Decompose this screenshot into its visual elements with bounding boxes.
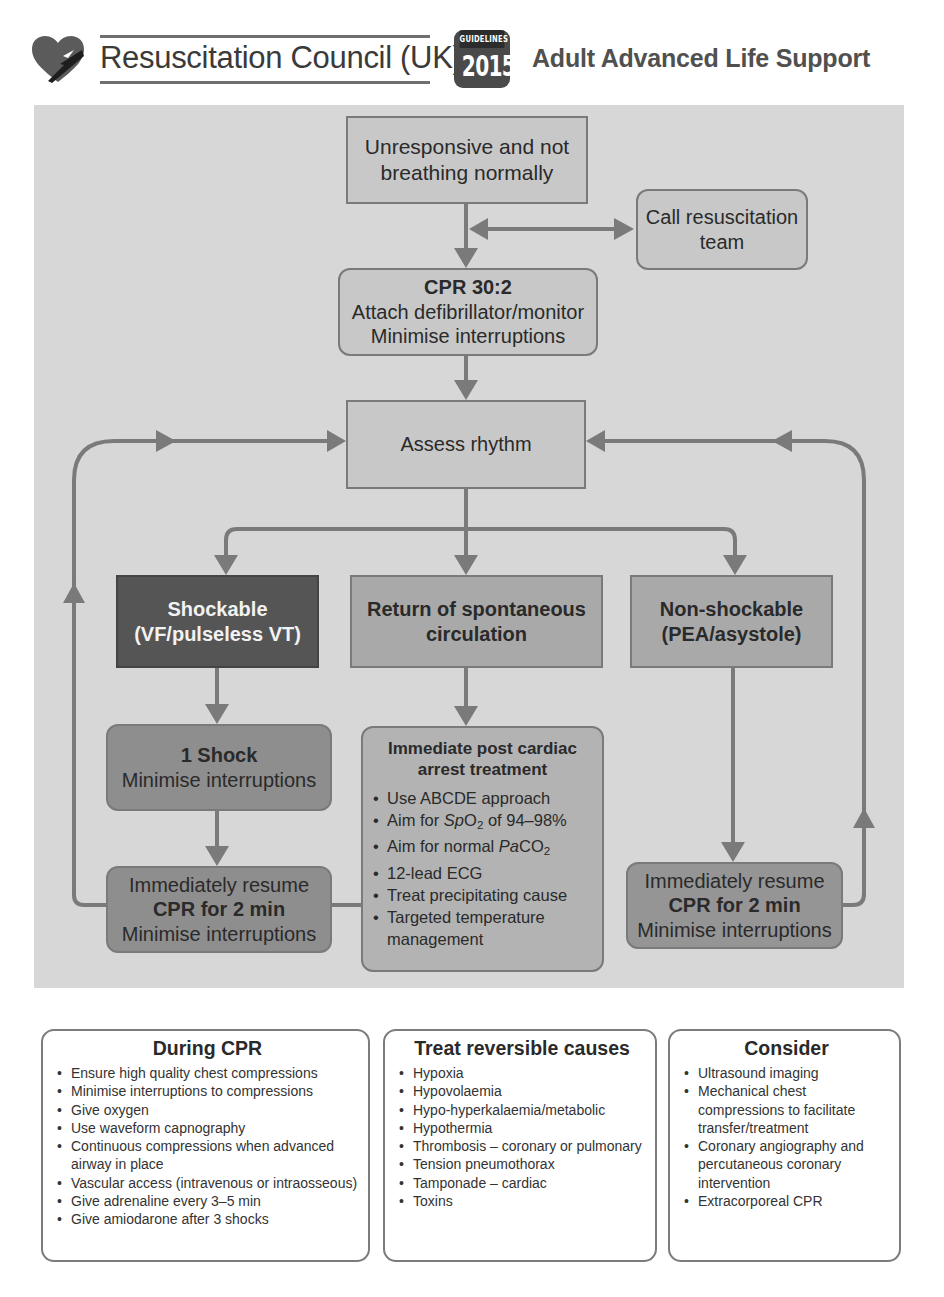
list-item: Aim for SpO2 of 94–98% [373,809,567,836]
item-text: 12-lead ECG [387,864,482,882]
list-item: Minimise interruptions to compressions [55,1082,360,1100]
guidelines-badge: GUIDELINES 2015 [454,30,510,88]
non-shockable-box: Non-shockable (PEA/asystole) [630,575,833,668]
post-arrest-treatment-box: Immediate post cardiac arrest treatment … [361,726,604,972]
assess-rhythm-label: Assess rhythm [400,432,531,456]
item-text: Targeted temperature [387,908,545,926]
item-text: Aim for normal [387,837,499,855]
cpr-title: CPR 30:2 [424,275,512,299]
rosc-line-2: circulation [426,622,527,646]
header-rule-bottom [100,81,430,84]
page-title: Adult Advanced Life Support [532,44,870,73]
shockable-line-1: Shockable [167,597,267,621]
list-item: Extracorporeal CPR [682,1192,891,1210]
resume-left-title: CPR for 2 min [153,897,285,921]
list-item: Mechanical chest compressions to facilit… [682,1082,891,1137]
item-text: Treat precipitating cause [387,886,567,904]
card-title: Treat reversible causes [397,1037,647,1060]
list-item: Use waveform capnography [55,1119,360,1137]
list-item: Continuous compressions when advanced ai… [55,1137,360,1174]
card-list: Hypoxia Hypovolaemia Hypo-hyperkalaemia/… [397,1064,647,1210]
start-line-2: breathing normally [381,160,554,186]
call-team-line-2: team [700,230,744,254]
list-item: Give amiodarone after 3 shocks [55,1210,360,1228]
card-list: Ultrasound imaging Mechanical chest comp… [682,1064,891,1210]
list-item: Hypovolaemia [397,1082,647,1100]
list-item: Aim for normal PaCO2 [373,835,567,862]
resume-cpr-shockable-box: Immediately resume CPR for 2 min Minimis… [106,866,332,953]
list-item: Treat precipitating cause [373,884,567,906]
list-item: Thrombosis – coronary or pulmonary [397,1137,647,1155]
item-text: Sp [444,811,464,829]
list-item: Hypoxia [397,1064,647,1082]
post-title-line-1: Immediate post cardiac [388,739,577,758]
header-rule-top [100,35,430,38]
list-item: Vascular access (intravenous or intraoss… [55,1174,360,1192]
post-arrest-list: Use ABCDE approach Aim for SpO2 of 94–98… [363,787,567,951]
consider-card: Consider Ultrasound imaging Mechanical c… [668,1029,901,1262]
resume-cpr-non-shockable-box: Immediately resume CPR for 2 min Minimis… [626,862,843,949]
card-title: Consider [682,1037,891,1060]
list-item: Give oxygen [55,1101,360,1119]
call-team-line-1: Call resuscitation [646,205,798,229]
post-arrest-title: Immediate post cardiac arrest treatment [388,738,577,781]
cpr-30-2-box: CPR 30:2 Attach defibrillator/monitor Mi… [338,268,598,356]
rosc-box: Return of spontaneous circulation [350,575,603,668]
call-team-box: Call resuscitation team [636,189,808,270]
assess-rhythm-box: Assess rhythm [346,400,586,489]
card-list: Ensure high quality chest compressions M… [55,1064,360,1229]
resume-right-title: CPR for 2 min [668,893,800,917]
organization-name: Resuscitation Council (UK) [100,40,440,76]
resume-right-line-2: Minimise interruptions [637,918,832,942]
list-item: Toxins [397,1192,647,1210]
one-shock-box: 1 Shock Minimise interruptions [106,724,332,811]
item-subscript: 2 [544,845,550,857]
list-item: Tension pneumothorax [397,1155,647,1173]
non-shockable-line-1: Non-shockable [660,597,803,621]
one-shock-line-1: Minimise interruptions [122,768,317,792]
item-text: O [464,811,477,829]
during-cpr-card: During CPR Ensure high quality chest com… [41,1029,370,1262]
cpr-line-2: Minimise interruptions [371,324,566,348]
unresponsive-box: Unresponsive and not breathing normally [346,116,588,204]
item-text: management [387,930,483,948]
list-item: Coronary angiography and percutaneous co… [682,1137,891,1192]
badge-label: GUIDELINES [460,30,505,48]
list-item: Hypothermia [397,1119,647,1137]
list-item: Ultrasound imaging [682,1064,891,1082]
list-item: 12-lead ECG [373,862,567,884]
card-title: During CPR [55,1037,360,1060]
shockable-line-2: (VF/pulseless VT) [134,622,301,646]
list-item: Tamponade – cardiac [397,1174,647,1192]
item-text: CO [519,837,544,855]
list-item: Use ABCDE approach [373,787,567,809]
list-item: Ensure high quality chest compressions [55,1064,360,1082]
shockable-box: Shockable (VF/pulseless VT) [116,575,319,668]
cpr-line-1: Attach defibrillator/monitor [352,300,584,324]
resume-right-line-1: Immediately resume [644,869,824,893]
post-title-line-2: arrest treatment [418,760,547,779]
heart-logo-icon [30,34,86,84]
item-text: Pa [499,837,519,855]
resume-left-line-2: Minimise interruptions [122,922,317,946]
badge-year: 2015 [462,48,502,86]
item-text: of 94–98% [483,811,566,829]
rosc-line-1: Return of spontaneous [367,597,586,621]
list-item: Give adrenaline every 3–5 min [55,1192,360,1210]
list-item: Targeted temperaturemanagement [373,906,567,950]
start-line-1: Unresponsive and not [365,134,569,160]
reversible-causes-card: Treat reversible causes Hypoxia Hypovola… [383,1029,657,1262]
non-shockable-line-2: (PEA/asystole) [661,622,801,646]
one-shock-title: 1 Shock [181,743,258,767]
list-item: Hypo-hyperkalaemia/metabolic [397,1101,647,1119]
item-text: Aim for [387,811,444,829]
resume-left-line-1: Immediately resume [129,873,309,897]
item-text: Use ABCDE approach [387,789,550,807]
